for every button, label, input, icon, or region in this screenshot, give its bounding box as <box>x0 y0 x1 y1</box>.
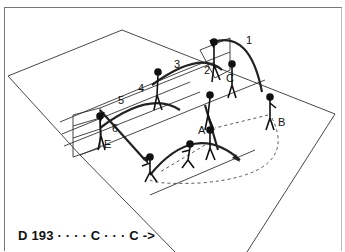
drill-illustration: E A B C 1 2 3 4 5 6 <box>0 0 345 252</box>
movement-paths <box>148 115 278 183</box>
label-arc-4: 4 <box>138 82 144 94</box>
label-arc-2: 2 <box>204 64 210 76</box>
label-a: A <box>198 124 206 136</box>
figures <box>97 39 276 182</box>
label-arc-3: 3 <box>174 58 180 70</box>
label-e: E <box>104 138 111 150</box>
ball-arcs <box>100 40 262 175</box>
label-c: C <box>226 72 234 84</box>
label-arc-1: 1 <box>246 34 252 46</box>
label-b: B <box>278 116 285 128</box>
court-plane <box>8 30 335 252</box>
figure-a <box>182 141 194 168</box>
diagram-caption: D 193 · · · · C · · · C -> <box>18 228 155 243</box>
label-arc-6: 6 <box>112 122 118 134</box>
label-arc-5: 5 <box>118 94 124 106</box>
